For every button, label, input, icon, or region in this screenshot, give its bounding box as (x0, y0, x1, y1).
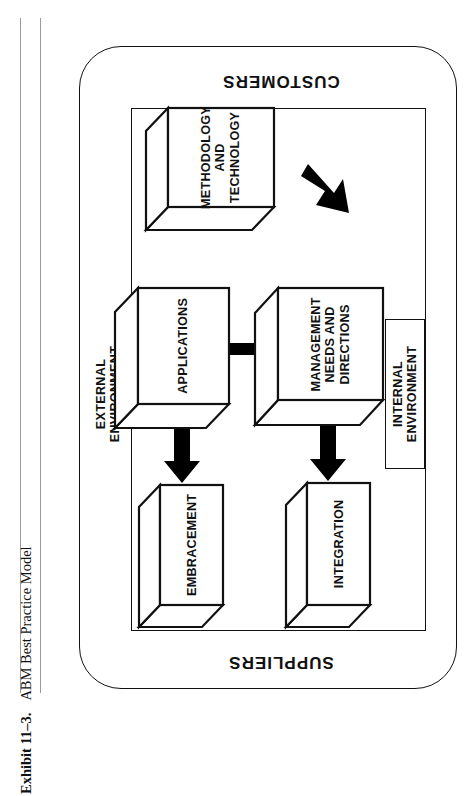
arrow-methodology-to-management (301, 164, 349, 213)
exhibit-title: ABM Best Practice Model (18, 546, 34, 700)
caption-gutter: Exhibit 11–3.ABM Best Practice Model (0, 0, 46, 711)
node-embracement-label: EMBRACEMENT (160, 485, 223, 605)
node-applications[interactable]: APPLICATIONS (114, 286, 230, 429)
management-line2: NEEDS AND (323, 306, 337, 382)
abm-best-practice-diagram: SUPPLIERS CUSTOMERS INTERNAL ENVIRONMENT… (46, 0, 471, 711)
methodology-line3: TECHNOLOGY (228, 112, 242, 203)
node-management-label: MANAGEMENT NEEDS AND DIRECTIONS (278, 288, 383, 400)
node-methodology-and-technology[interactable]: METHODOLOGY AND TECHNOLOGY (145, 106, 275, 231)
node-applications-label: APPLICATIONS (138, 288, 229, 404)
node-integration-label: INTEGRATION (307, 483, 370, 605)
node-management-needs-and-directions[interactable]: MANAGEMENT NEEDS AND DIRECTIONS (254, 286, 384, 426)
exhibit-number: Exhibit 11–3. (18, 713, 34, 794)
methodology-line1: METHODOLOGY (199, 106, 213, 209)
node-embracement[interactable]: EMBRACEMENT (138, 483, 224, 628)
exhibit-caption: Exhibit 11–3.ABM Best Practice Model (18, 134, 44, 796)
applications-line1: APPLICATIONS (176, 298, 190, 394)
embracement-line1: EMBRACEMENT (184, 494, 198, 596)
management-line3: DIRECTIONS (338, 304, 352, 384)
arrow-management-to-integration (310, 426, 346, 481)
methodology-line2: AND (214, 143, 228, 171)
node-integration[interactable]: INTEGRATION (285, 481, 371, 628)
arrow-applications-to-embracement (164, 429, 200, 483)
figure-rotation-wrapper: SUPPLIERS CUSTOMERS INTERNAL ENVIRONMENT… (46, 0, 471, 711)
node-methodology-label: METHODOLOGY AND TECHNOLOGY (168, 108, 274, 207)
integration-line1: INTEGRATION (331, 500, 345, 589)
management-line1: MANAGEMENT (309, 297, 323, 391)
